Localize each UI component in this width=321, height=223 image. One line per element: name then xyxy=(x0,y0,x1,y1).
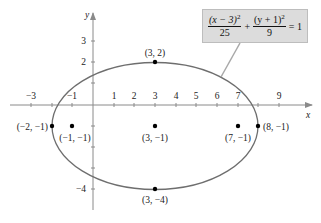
x-axis-label: x xyxy=(305,110,311,120)
fraction-y-term: (y + 1)2 9 xyxy=(253,15,286,38)
callout-pointer xyxy=(221,43,240,77)
point-label: (3, 2) xyxy=(145,48,166,59)
x-term-numerator: (x − 3) xyxy=(209,14,237,25)
y-term-numerator: (y + 1) xyxy=(254,14,281,25)
x-tick-label: 5 xyxy=(194,91,199,101)
y-tick-label: 3 xyxy=(81,36,86,46)
equation-callout: (x − 3)2 25 + (y + 1)2 9 = 1 xyxy=(202,9,308,43)
x-tick-label: 4 xyxy=(174,91,179,101)
y-term-denominator: 9 xyxy=(267,27,272,38)
x-tick-label: −3 xyxy=(26,91,36,101)
x-tick-label: 6 xyxy=(215,91,220,101)
fraction-x-term: (x − 3)2 25 xyxy=(208,15,241,38)
y-tick-label: 2 xyxy=(81,57,86,67)
point-label: (7, −1) xyxy=(225,133,251,144)
point-label: (8, −1) xyxy=(263,122,289,133)
x-term-exponent: 2 xyxy=(237,12,241,20)
x-tick-label: 9 xyxy=(277,91,282,101)
x-tick-label: 3 xyxy=(153,91,158,101)
x-term-denominator: 25 xyxy=(220,27,230,38)
y-term-exponent: 2 xyxy=(281,12,285,20)
x-tick-label: 2 xyxy=(132,91,137,101)
plus-sign: + xyxy=(244,21,250,32)
point-center xyxy=(153,124,157,128)
point-left-vertex xyxy=(50,124,54,128)
point-bottom-vertex xyxy=(153,187,157,191)
point-top-vertex xyxy=(153,60,157,64)
point-right-vertex xyxy=(256,124,260,128)
point-left-focus xyxy=(70,124,74,128)
point-label: (3, −4) xyxy=(142,195,168,206)
x-tick-label: 1 xyxy=(112,91,117,101)
points xyxy=(50,60,260,191)
y-axis-label: y xyxy=(84,10,90,20)
equals-one: = 1 xyxy=(289,21,302,32)
point-label: (3, −1) xyxy=(142,133,168,144)
point-label: (−2, −1) xyxy=(17,122,48,133)
y-tick-label: −4 xyxy=(76,184,86,194)
point-right-focus xyxy=(236,124,240,128)
point-label: (−1, −1) xyxy=(59,133,90,144)
x-tick-label: 7 xyxy=(236,91,241,101)
x-tick-label: −1 xyxy=(67,91,77,101)
